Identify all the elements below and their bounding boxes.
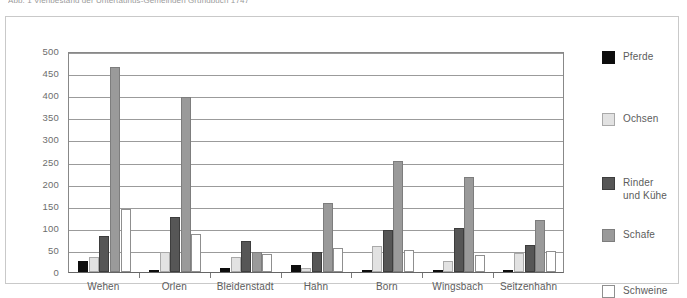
bar-group [211, 53, 282, 272]
legend-swatch-icon [602, 229, 615, 242]
x-axis-label-wingsbach: Wingsbach [432, 281, 483, 292]
y-axis-tick-label: 400 [13, 91, 59, 101]
y-axis-tick-label: 150 [13, 202, 59, 212]
bar-schafe-wehen [110, 67, 120, 272]
y-axis-tick-label: 500 [13, 47, 59, 57]
legend-swatch-icon [602, 51, 615, 64]
bar-rinder-und-kühe-wehen [99, 236, 109, 272]
x-axis-tick [422, 273, 423, 278]
bar-schweine-wingsbach [475, 255, 485, 272]
bar-schafe-bleidenstadt [252, 252, 262, 272]
x-axis-tick [493, 273, 494, 278]
x-axis-tick [210, 273, 211, 278]
y-axis-tick-label: 100 [13, 224, 59, 234]
bar-schweine-orlen [191, 234, 201, 272]
bar-schweine-wehen [121, 209, 131, 272]
bar-schafe-orlen [181, 97, 191, 272]
legend-label: Schweine [623, 285, 668, 298]
legend-swatch-icon [602, 113, 615, 126]
legend-item-schafe[interactable]: Schafe [602, 229, 655, 242]
legend-swatch-icon [602, 285, 615, 298]
bar-pferde-born [362, 270, 372, 272]
bar-pferde-bleidenstadt [220, 268, 230, 272]
chart-frame: 500450400350300250200150100500 WehenOrle… [5, 16, 679, 284]
bar-schafe-wingsbach [464, 177, 474, 272]
bar-pferde-seitzenhahn [503, 270, 513, 272]
legend-label: Pferde [623, 51, 653, 64]
y-axis-tick-label: 350 [13, 113, 59, 123]
y-axis-tick-label: 450 [13, 69, 59, 79]
legend-label: Ochsen [623, 113, 658, 126]
legend-item-ochsen[interactable]: Ochsen [602, 113, 658, 126]
x-axis-tick [281, 273, 282, 278]
bar-rinder-und-kühe-hahn [312, 252, 322, 272]
bar-group [282, 53, 353, 272]
legend-item-schweine[interactable]: Schweine [602, 285, 668, 298]
x-axis-label-seitzenhahn: Seitzenhahn [500, 281, 557, 292]
bar-rinder-und-kühe-born [383, 230, 393, 272]
bar-schweine-bleidenstadt [262, 254, 272, 272]
x-axis-label-bleidenstadt: Bleidenstadt [217, 281, 274, 292]
bar-group [69, 53, 140, 272]
bar-group [140, 53, 211, 272]
legend-item-rinder-und-kühe[interactable]: Rinder und Kühe [602, 177, 667, 202]
bar-rinder-und-kühe-orlen [170, 217, 180, 272]
x-axis: WehenOrlenBleidenstadtHahnBornWingsbachS… [68, 273, 564, 297]
bar-schweine-seitzenhahn [546, 251, 556, 272]
x-axis-label-hahn: Hahn [304, 281, 329, 292]
bar-schweine-hahn [333, 248, 343, 272]
x-axis-label-born: Born [376, 281, 398, 292]
bar-pferde-hahn [291, 265, 301, 272]
x-axis-label-wehen: Wehen [87, 281, 119, 292]
bar-pferde-wehen [78, 261, 88, 272]
y-axis-tick-label: 0 [13, 268, 59, 278]
x-axis-label-orlen: Orlen [162, 281, 187, 292]
plot-area [68, 52, 564, 273]
y-axis-tick-label: 50 [13, 246, 59, 256]
bar-ochsen-born [372, 246, 382, 272]
bar-group [352, 53, 423, 272]
bar-schafe-seitzenhahn [535, 220, 545, 272]
bar-rinder-und-kühe-seitzenhahn [525, 245, 535, 272]
legend-label: Rinder und Kühe [623, 177, 667, 202]
bar-schafe-hahn [323, 203, 333, 272]
bar-ochsen-seitzenhahn [514, 253, 524, 272]
bar-group [423, 53, 494, 272]
bar-ochsen-wingsbach [443, 261, 453, 272]
bar-ochsen-hahn [301, 268, 311, 272]
bar-rinder-und-kühe-bleidenstadt [241, 241, 251, 272]
legend-swatch-icon [602, 177, 615, 190]
bar-pferde-orlen [149, 270, 159, 272]
x-axis-tick [351, 273, 352, 278]
bar-pferde-wingsbach [433, 270, 443, 272]
bar-rinder-und-kühe-wingsbach [454, 228, 464, 272]
bar-ochsen-bleidenstadt [231, 257, 241, 272]
legend-item-pferde[interactable]: Pferde [602, 51, 653, 64]
figure-caption: Abb. 1 Viehbestand der Untertaunus-Gemei… [8, 0, 608, 6]
bar-schafe-born [393, 161, 403, 272]
bar-group [494, 53, 565, 272]
x-axis-tick [139, 273, 140, 278]
bar-schweine-born [404, 250, 414, 272]
y-axis-tick-label: 250 [13, 158, 59, 168]
y-axis-tick-label: 200 [13, 180, 59, 190]
legend-label: Schafe [623, 229, 655, 242]
y-axis-tick-label: 300 [13, 135, 59, 145]
bar-ochsen-orlen [160, 252, 170, 272]
bar-ochsen-wehen [89, 257, 99, 272]
